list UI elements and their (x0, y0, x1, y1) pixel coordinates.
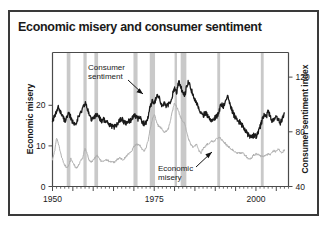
x-axis-tick-label: 2000 (246, 194, 265, 204)
recession-band (217, 53, 220, 187)
y-axis-tick-label-left: 0 (41, 182, 46, 192)
annotation-consumer-sentiment-line1: Consumer (88, 63, 125, 72)
y-axis-tick-label-right: 40 (296, 182, 306, 192)
annotation-economic-misery-line1: Economic (158, 164, 193, 173)
chart-plot-area: 195019752000010204080120 Economic misery… (0, 0, 331, 228)
y-axis-tick-label-left: 20 (36, 100, 46, 110)
annotation-economic-misery-line2: misery (158, 173, 182, 182)
recession-band (83, 53, 86, 187)
x-axis-ticks (53, 187, 289, 192)
y-axis-title-left: Economic misery (25, 84, 35, 155)
y-axis-title-right: Consumer sentiment index (300, 64, 310, 173)
figure-container: Economic misery and consumer sentiment 1… (0, 0, 331, 228)
x-axis-tick-label: 1975 (145, 194, 164, 204)
recession-band (133, 53, 137, 187)
annotation-consumer-sentiment-line2: sentiment (88, 72, 123, 81)
y-axis-tick-label-left: 10 (36, 141, 46, 151)
x-axis-tick-label: 1950 (43, 194, 62, 204)
